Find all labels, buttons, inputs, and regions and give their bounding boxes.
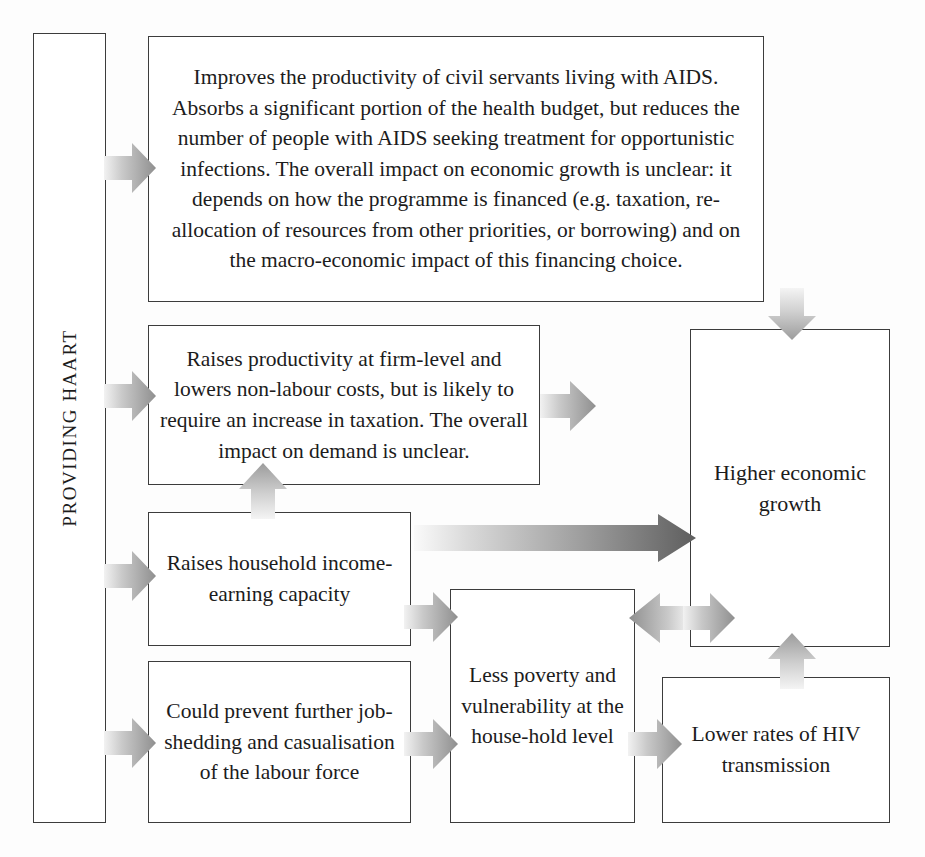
- box-civil-servants: Improves the productivity of civil serva…: [148, 36, 764, 302]
- arrow-household-to-growth-icon: [414, 513, 696, 563]
- box-less-poverty: Less poverty and vulnerability at the ho…: [450, 589, 635, 823]
- arrow-growth-to-less-poverty-icon: [629, 591, 689, 645]
- arrow-firm-level-to-growth-icon: [540, 378, 596, 434]
- box-firm-level-productivity: Raises productivity at firm-level and lo…: [148, 325, 540, 485]
- box-household-income: Raises household income-earning capacity: [148, 512, 411, 646]
- box-less-poverty-text: Less poverty and vulnerability at the ho…: [451, 658, 634, 754]
- providing-haart-label: PROVIDING HAART: [59, 329, 81, 527]
- box-firm-level-text: Raises productivity at firm-level and lo…: [149, 342, 539, 468]
- box-job-shedding: Could prevent further job-shedding and c…: [148, 661, 411, 823]
- box-hiv-text: Lower rates of HIV transmission: [663, 717, 889, 782]
- box-civil-servants-text: Improves the productivity of civil serva…: [149, 60, 763, 278]
- box-hiv-transmission: Lower rates of HIV transmission: [662, 677, 890, 823]
- diagram-canvas: PROVIDING HAART Improves the productivit…: [0, 0, 925, 857]
- box-job-shedding-text: Could prevent further job-shedding and c…: [149, 694, 410, 790]
- box-higher-economic-growth: Higher economic growth: [690, 329, 890, 647]
- providing-haart-spine: PROVIDING HAART: [33, 33, 106, 823]
- box-household-text: Raises household income-earning capacity: [149, 546, 410, 611]
- box-growth-text: Higher economic growth: [691, 455, 889, 521]
